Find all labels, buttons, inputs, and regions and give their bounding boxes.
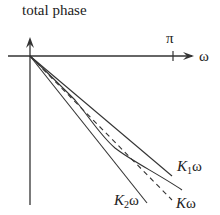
k1-prefix: K (177, 158, 187, 174)
k2-prefix: K (114, 192, 124, 208)
phase-diagram: total phase π ω K1ω K2ω Kω (0, 0, 220, 215)
k-omega-label: Kω (176, 195, 196, 212)
pi-label: π (166, 30, 174, 47)
k2-omega-line (30, 56, 147, 203)
k2-omega-label: K2ω (114, 192, 139, 210)
k1-omega-label: K1ω (177, 158, 202, 176)
k-omega: ω (186, 195, 196, 211)
phase-plot-svg (0, 0, 220, 215)
k1-omega-line (30, 56, 172, 176)
k-omega-dashed-line (30, 56, 172, 200)
k-prefix: K (176, 195, 186, 211)
k2-omega: ω (129, 192, 139, 208)
x-axis-label: ω (199, 48, 209, 65)
diagram-title: total phase (22, 2, 87, 19)
total-phase-curve (30, 56, 182, 190)
k1-omega: ω (192, 158, 202, 174)
